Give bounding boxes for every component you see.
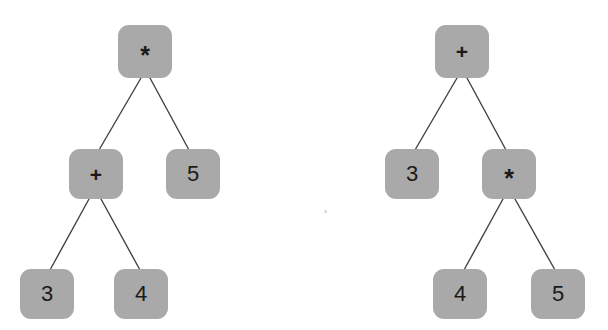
tree-node-label: 5 [552,283,564,305]
tree-node-3: 3 [385,149,439,199]
tree-node-label: + [456,41,468,62]
tree-edge [467,78,506,150]
tree-node-label: 3 [406,163,418,185]
tree-edge [101,199,140,270]
tree-node-3: 3 [20,269,74,319]
tree-node-label: 5 [187,163,199,185]
tree-node-plus: + [435,25,489,78]
tree-node-label: 3 [41,283,53,305]
tree-node-plus: + [69,149,123,199]
tree-edge [50,199,89,270]
tree-node-4: 4 [114,269,168,319]
tree-node-label: 4 [454,283,466,305]
tree-node-multiply: * [482,149,536,199]
tree-node-label: * [504,166,514,191]
tree-edge [464,199,503,270]
tree-node-4: 4 [433,269,487,319]
tree-node-5: 5 [166,149,220,199]
tree-node-multiply: * [118,25,172,78]
tree-edge [415,78,457,150]
tree-edge [150,78,189,150]
tree-node-label: * [140,43,150,68]
tree-node-label: + [90,164,102,185]
tree-node-5: 5 [531,269,585,319]
tree-edges [50,78,555,270]
tree-node-label: 4 [135,283,147,305]
expression-tree-diagram: *+534+3*45 [0,0,608,330]
tree-edge [515,199,555,270]
scan-speck [324,210,327,213]
tree-edge [99,78,141,150]
